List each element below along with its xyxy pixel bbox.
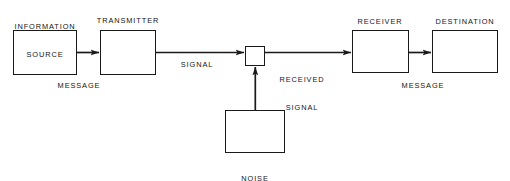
noise-source-label: NOISE SOURCE xyxy=(236,155,273,181)
message-left-label: MESSAGE xyxy=(58,81,101,90)
received-signal-label: RECEIVED SIGNAL xyxy=(280,56,325,131)
information-source-label-line2: SOURCE xyxy=(14,50,75,59)
signal-label: SIGNAL xyxy=(181,60,214,69)
transmitter-box xyxy=(101,31,156,75)
received-signal-label-line1: RECEIVED xyxy=(280,75,325,84)
information-source-label-line1: INFORMATION xyxy=(14,22,75,31)
noise-source-label-line1: NOISE xyxy=(236,174,273,181)
receiver-label: RECEIVER xyxy=(358,17,403,26)
destination-label: DESTINATION xyxy=(435,17,494,26)
transmitter-label: TRANSMITTER xyxy=(97,16,159,25)
diagram-canvas xyxy=(0,0,510,181)
message-right-label: MESSAGE xyxy=(402,81,445,90)
information-source-label: INFORMATION SOURCE xyxy=(14,3,75,78)
communication-system-diagram: INFORMATION SOURCE TRANSMITTER RECEIVER … xyxy=(0,0,510,181)
channel-junction-box xyxy=(246,47,265,66)
receiver-box xyxy=(353,31,409,73)
received-signal-label-line2: SIGNAL xyxy=(280,103,325,112)
destination-box xyxy=(433,31,498,73)
noise-source-box xyxy=(226,111,285,153)
